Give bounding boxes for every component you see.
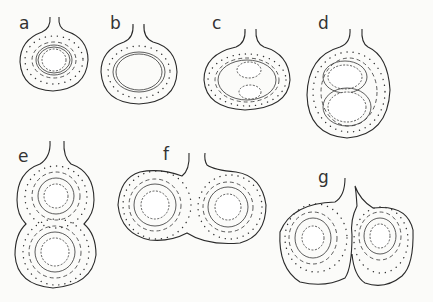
panel-g <box>280 178 413 285</box>
panel-c <box>204 29 290 110</box>
panel-label-d: d <box>318 13 329 33</box>
figure: a b c d e f g <box>0 0 433 302</box>
drawing: a b c d e f g <box>0 0 433 302</box>
panel-label-a: a <box>19 13 29 33</box>
panel-label-f: f <box>163 144 170 164</box>
panel-a <box>20 17 88 91</box>
panel-label-e: e <box>18 146 28 166</box>
panel-label-b: b <box>110 13 121 33</box>
panel-d <box>307 29 390 138</box>
panel-label-c: c <box>212 13 221 33</box>
panel-b <box>101 24 177 104</box>
panel-label-g: g <box>318 167 329 187</box>
panel-f <box>118 153 266 244</box>
